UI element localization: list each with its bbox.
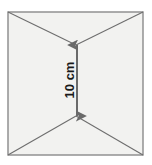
geometry-figure: 10 cm bbox=[0, 0, 152, 165]
figure-canvas: 10 cm bbox=[0, 0, 152, 165]
dimension-label: 10 cm bbox=[62, 62, 77, 99]
